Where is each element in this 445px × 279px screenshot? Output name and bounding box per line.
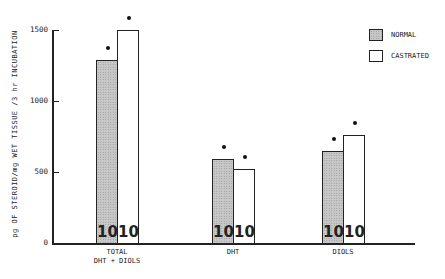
y-axis-label: pg OF STEROID/mg WET TISSUE /3 hr INCUBA… [11, 9, 19, 259]
y-tick [53, 172, 59, 173]
y-tick-label: 0 [18, 238, 48, 247]
sample-size-label: 10 [323, 223, 343, 241]
y-tick-label: 1500 [18, 25, 48, 34]
significance-marker [353, 121, 357, 125]
y-axis [52, 30, 54, 244]
y-tick-label: 500 [18, 167, 48, 176]
bar-castrated-0: 10 [117, 30, 139, 244]
y-tick-label: 1000 [18, 96, 48, 105]
sample-size-label: 10 [213, 223, 233, 241]
category-label: DIOLS [303, 248, 383, 257]
significance-marker [243, 155, 247, 159]
category-label: TOTALDHT + DIOLS [77, 248, 157, 266]
y-tick [53, 101, 59, 102]
legend-label-castrated: CASTRATED [391, 52, 429, 60]
legend-item-castrated: CASTRATED [369, 50, 429, 62]
sample-size-label: 10 [234, 223, 254, 241]
y-tick [53, 243, 59, 244]
legend-swatch-normal [369, 29, 383, 41]
bar-normal-2: 10 [322, 151, 344, 244]
legend-swatch-castrated [369, 50, 383, 62]
significance-marker [127, 16, 131, 20]
sample-size-label: 10 [97, 223, 117, 241]
bar-castrated-2: 10 [343, 135, 365, 244]
significance-marker [222, 145, 226, 149]
sample-size-label: 10 [344, 223, 364, 241]
legend-item-normal: NORMAL [369, 29, 416, 41]
significance-marker [106, 46, 110, 50]
bar-normal-1: 10 [212, 159, 234, 244]
bar-castrated-1: 10 [233, 169, 255, 244]
y-tick [53, 30, 59, 31]
category-label: DHT [193, 248, 273, 257]
bar-normal-0: 10 [96, 60, 118, 244]
sample-size-label: 10 [118, 223, 138, 241]
legend-label-normal: NORMAL [391, 31, 416, 39]
significance-marker [332, 137, 336, 141]
